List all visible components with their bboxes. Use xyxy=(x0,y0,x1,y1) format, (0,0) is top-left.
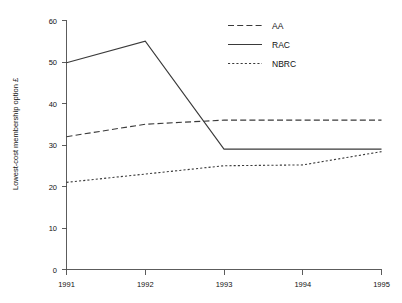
x-tick-label: 1992 xyxy=(137,280,154,289)
legend-label-nbrc: NBRC xyxy=(272,59,296,69)
chart-background xyxy=(0,0,402,303)
y-tick-label: 10 xyxy=(49,224,57,233)
y-tick-label: 30 xyxy=(49,141,57,150)
y-tick-label: 20 xyxy=(49,183,57,192)
chart-container: 60 50 40 30 20 10 0 1991 1992 1993 1994 … xyxy=(0,0,402,303)
y-tick-label: 50 xyxy=(49,58,57,67)
x-tick-label: 1991 xyxy=(58,280,75,289)
y-tick-label: 40 xyxy=(49,100,57,109)
y-tick-label: 60 xyxy=(49,17,57,26)
x-tick-label: 1995 xyxy=(373,280,390,289)
y-tick-label: 0 xyxy=(53,266,57,275)
y-axis-title: Lowest-cost membership option £ xyxy=(11,77,20,190)
legend-label-aa: AA xyxy=(272,21,284,31)
line-chart: 60 50 40 30 20 10 0 1991 1992 1993 1994 … xyxy=(0,0,402,303)
legend-label-rac: RAC xyxy=(272,40,290,50)
x-tick-label: 1994 xyxy=(294,280,311,289)
x-tick-label: 1993 xyxy=(216,280,233,289)
